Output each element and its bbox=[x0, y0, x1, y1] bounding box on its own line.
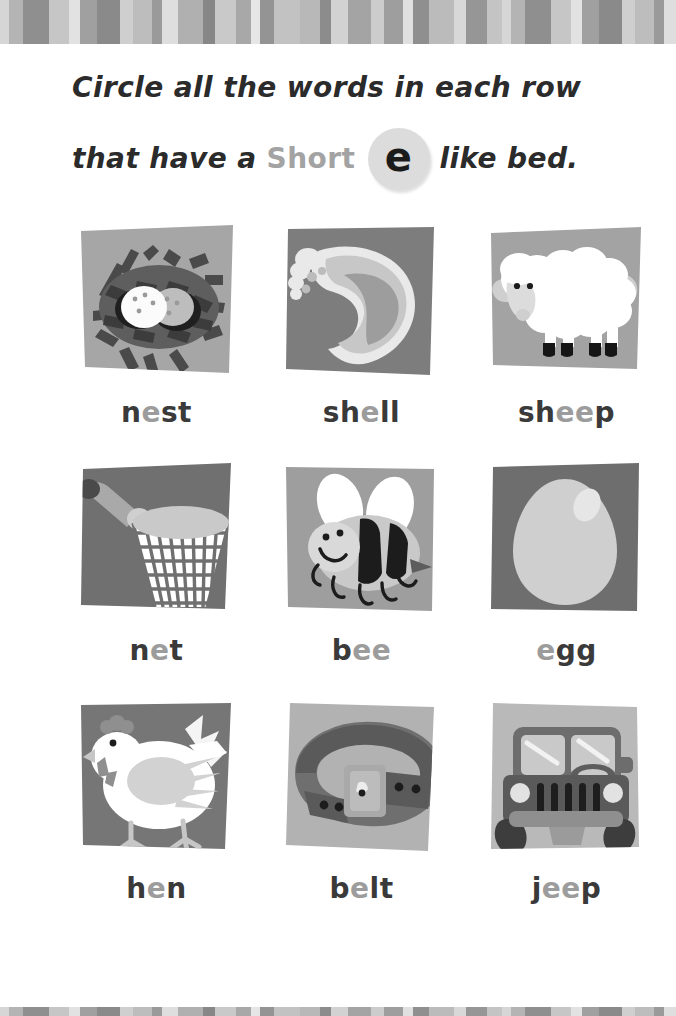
word-label-sheep[interactable]: sheep bbox=[518, 399, 615, 427]
stripe bbox=[413, 0, 429, 44]
stripe bbox=[0, 0, 9, 44]
stripe bbox=[120, 0, 133, 44]
word-label-shell[interactable]: shell bbox=[323, 399, 400, 427]
picture-tile-jeep[interactable] bbox=[487, 699, 647, 857]
stripe bbox=[371, 1007, 384, 1016]
picture-tile-nest[interactable] bbox=[77, 223, 237, 381]
word-picture-card-net[interactable]: net bbox=[54, 461, 259, 665]
sheep-illustration bbox=[487, 223, 647, 381]
word-label-net[interactable]: net bbox=[130, 637, 184, 665]
stripe bbox=[0, 1007, 9, 1016]
stripe bbox=[97, 1007, 120, 1016]
stripe bbox=[274, 0, 300, 44]
stripe bbox=[260, 0, 274, 44]
net-illustration bbox=[77, 461, 237, 619]
picture-tile-net[interactable] bbox=[77, 461, 237, 619]
stripe bbox=[403, 0, 413, 44]
stripe bbox=[274, 1007, 300, 1016]
stripe bbox=[502, 0, 511, 44]
stripe bbox=[320, 1007, 331, 1016]
word-picture-card-bee[interactable]: bee bbox=[259, 461, 464, 665]
stripe bbox=[371, 0, 384, 44]
stripe bbox=[300, 1007, 320, 1016]
word-segment: n bbox=[166, 872, 186, 905]
picture-tile-bee[interactable] bbox=[282, 461, 442, 619]
belt-illustration bbox=[282, 699, 442, 857]
word-segment: p bbox=[581, 872, 602, 905]
stripe bbox=[348, 0, 371, 44]
word-label-hen[interactable]: hen bbox=[126, 875, 186, 903]
stripe bbox=[582, 0, 599, 44]
shell-illustration bbox=[282, 223, 442, 381]
picture-tile-egg[interactable] bbox=[487, 461, 647, 619]
word-segment: sh bbox=[518, 396, 556, 429]
stripe bbox=[664, 0, 676, 44]
stripe bbox=[571, 1007, 582, 1016]
stripe bbox=[23, 0, 49, 44]
word-picture-card-shell[interactable]: shell bbox=[259, 223, 464, 427]
word-label-egg[interactable]: egg bbox=[536, 637, 597, 665]
stripe bbox=[23, 1007, 49, 1016]
worksheet-sheet: Circle all the words in each row that ha… bbox=[0, 44, 676, 1007]
word-picture-card-belt[interactable]: belt bbox=[259, 699, 464, 903]
word-picture-card-nest[interactable]: nest bbox=[54, 223, 259, 427]
stripe bbox=[635, 0, 654, 44]
grid-row: net bbox=[0, 461, 676, 665]
stripe bbox=[654, 0, 664, 44]
stripe bbox=[384, 1007, 403, 1016]
stripe bbox=[203, 0, 215, 44]
word-picture-card-egg[interactable]: egg bbox=[464, 461, 669, 665]
word-vowel-highlight: e bbox=[147, 872, 167, 905]
word-label-nest[interactable]: nest bbox=[121, 399, 192, 427]
stripe bbox=[635, 1007, 654, 1016]
word-picture-card-hen[interactable]: hen bbox=[54, 699, 259, 903]
word-segment: lt bbox=[370, 872, 394, 905]
word-vowel-highlight: ee bbox=[352, 634, 391, 667]
stripe bbox=[162, 0, 178, 44]
vowel-badge: e bbox=[368, 128, 430, 190]
stripe bbox=[260, 1007, 274, 1016]
stripe bbox=[664, 1007, 676, 1016]
stripe bbox=[599, 1007, 622, 1016]
word-segment: b bbox=[332, 634, 353, 667]
stripe bbox=[178, 0, 203, 44]
stripe bbox=[466, 1007, 487, 1016]
stripe bbox=[454, 0, 466, 44]
nest-illustration bbox=[77, 223, 237, 381]
short-label: Short bbox=[256, 145, 363, 173]
grid-row: hen belt bbox=[0, 699, 676, 903]
stripe bbox=[152, 1007, 162, 1016]
stripe bbox=[331, 1007, 348, 1016]
stripe bbox=[466, 0, 487, 44]
picture-tile-belt[interactable] bbox=[282, 699, 442, 857]
stripe bbox=[413, 1007, 429, 1016]
stripe bbox=[331, 0, 348, 44]
picture-word-grid: nest shell bbox=[0, 190, 676, 903]
stripe bbox=[511, 1007, 525, 1016]
stripe bbox=[454, 1007, 466, 1016]
stripe bbox=[9, 1007, 23, 1016]
picture-tile-hen[interactable] bbox=[77, 699, 237, 857]
stripe bbox=[384, 0, 403, 44]
word-vowel-highlight: e bbox=[150, 634, 170, 667]
stripe bbox=[178, 1007, 203, 1016]
word-segment: b bbox=[329, 872, 350, 905]
vowel-badge-letter: e bbox=[385, 137, 413, 177]
word-label-jeep[interactable]: jeep bbox=[532, 875, 602, 903]
stripe bbox=[525, 0, 551, 44]
word-segment: h bbox=[126, 872, 146, 905]
picture-tile-sheep[interactable] bbox=[487, 223, 647, 381]
word-picture-card-sheep[interactable]: sheep bbox=[464, 223, 669, 427]
stripe bbox=[133, 0, 152, 44]
word-segment: t bbox=[170, 634, 184, 667]
word-picture-card-jeep[interactable]: jeep bbox=[464, 699, 669, 903]
word-vowel-highlight: e bbox=[141, 396, 161, 429]
instruction-line-2-after: like bed. bbox=[440, 145, 579, 173]
word-label-belt[interactable]: belt bbox=[329, 875, 393, 903]
picture-tile-shell[interactable] bbox=[282, 223, 442, 381]
stripe bbox=[162, 1007, 178, 1016]
instruction-line-2-before: that have a bbox=[72, 145, 256, 173]
word-label-bee[interactable]: bee bbox=[332, 637, 392, 665]
stripe bbox=[133, 1007, 152, 1016]
stripe bbox=[300, 0, 320, 44]
